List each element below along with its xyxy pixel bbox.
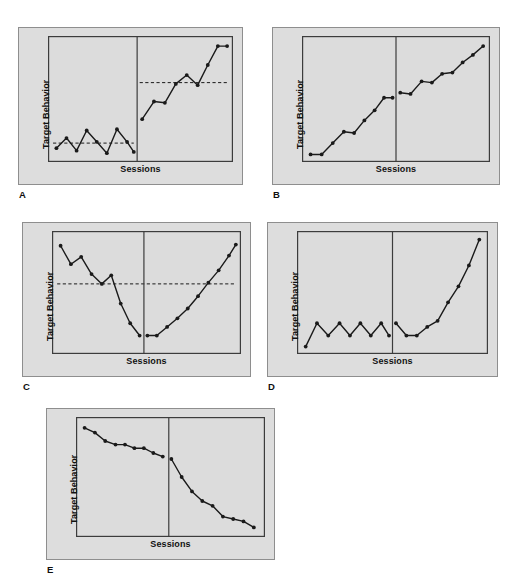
- panel-d-x-axis-label: Sessions: [297, 356, 488, 366]
- panel-c-x-axis-label: Sessions: [52, 356, 241, 366]
- panel-d-chart: [297, 231, 488, 354]
- panel-b-y-axis-label: Target Behavior: [295, 80, 305, 149]
- panel-d: Target Behavior Sessions: [267, 222, 498, 377]
- panel-d-y-axis-label: Target Behavior: [290, 272, 300, 341]
- panel-a-plot: [48, 36, 233, 162]
- panel-c-plot: [52, 231, 241, 354]
- panel-a-letter: A: [19, 189, 26, 200]
- panel-e: Target Behavior Sessions: [46, 408, 275, 560]
- panel-b-x-axis-label: Sessions: [302, 164, 490, 174]
- panel-e-y-axis-label: Target Behavior: [69, 455, 79, 524]
- panel-e-letter: E: [47, 564, 54, 575]
- panel-a-y-axis-label: Target Behavior: [41, 80, 51, 149]
- panel-d-letter: D: [268, 381, 275, 392]
- panel-e-x-axis-label: Sessions: [76, 539, 265, 549]
- panel-c: Target Behavior Sessions: [22, 222, 251, 377]
- panel-e-chart: [76, 417, 265, 537]
- panel-b: Target Behavior Sessions: [272, 27, 500, 185]
- panel-c-chart: [52, 231, 241, 354]
- figure-root: Target Behavior Sessions A Target Behavi…: [0, 0, 518, 587]
- panel-b-letter: B: [273, 189, 280, 200]
- panel-b-plot: [302, 36, 490, 162]
- panel-a-x-axis-label: Sessions: [48, 164, 233, 174]
- panel-b-chart: [302, 36, 490, 162]
- panel-a: Target Behavior Sessions: [18, 27, 243, 185]
- panel-c-y-axis-label: Target Behavior: [45, 272, 55, 341]
- panel-a-chart: [48, 36, 233, 162]
- panel-e-plot: [76, 417, 265, 537]
- panel-d-plot: [297, 231, 488, 354]
- panel-c-letter: C: [23, 381, 30, 392]
